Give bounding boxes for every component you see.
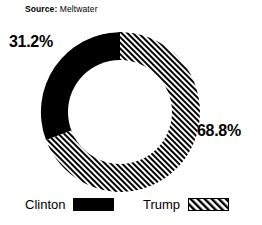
legend-hatch-pattern: [189, 199, 228, 210]
legend-item-clinton: Clinton: [25, 193, 114, 215]
legend-swatch-clinton: [73, 198, 114, 211]
legend-item-trump: Trump: [143, 193, 229, 215]
value-label-trump: 68.8%: [197, 122, 241, 140]
chart-legend: Clinton Trump: [0, 193, 262, 215]
legend-label-clinton: Clinton: [25, 197, 65, 212]
source-value: Meltwater: [60, 4, 98, 14]
source-label: Source:: [25, 4, 57, 14]
source-caption: Source: Meltwater: [25, 3, 98, 15]
legend-label-trump: Trump: [143, 197, 180, 212]
donut-chart-figure: Source: Meltwater: [0, 0, 262, 225]
donut-graphic: [40, 32, 200, 192]
value-label-clinton: 31.2%: [9, 33, 53, 51]
donut-svg: [40, 32, 200, 192]
legend-swatch-trump: [188, 198, 229, 211]
